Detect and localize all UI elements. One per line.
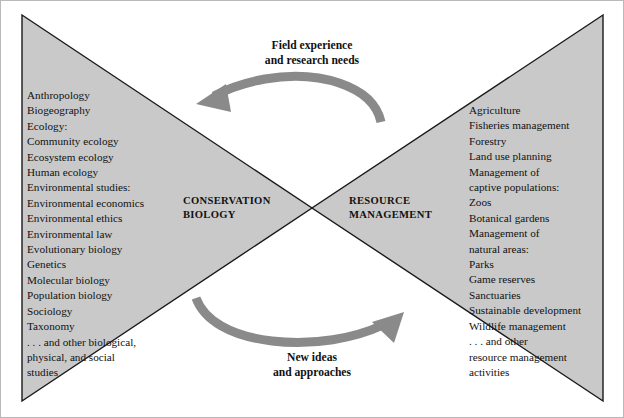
top-arrow-caption: Field experience and research needs <box>0 38 624 68</box>
field-item: Management of <box>469 165 581 180</box>
field-item: Management of <box>469 226 581 241</box>
discipline-item: Molecular biology <box>27 273 144 288</box>
conservation-biology-diagram: AnthropologyBiogeographyEcology:Communit… <box>0 0 624 418</box>
discipline-item: Environmental economics <box>27 196 144 211</box>
field-item: captive populations: <box>469 180 581 195</box>
curved-arrow-right-icon <box>196 298 404 343</box>
bottom-arrow-caption: New ideas and approaches <box>0 350 624 380</box>
field-item: natural areas: <box>469 242 581 257</box>
field-item: Land use planning <box>469 149 581 164</box>
discipline-item: Genetics <box>27 257 144 272</box>
discipline-item: Ecology: <box>27 119 144 134</box>
field-item: Forestry <box>469 134 581 149</box>
field-item: Agriculture <box>469 103 581 118</box>
discipline-item: Sociology <box>27 304 144 319</box>
discipline-item: Ecosystem ecology <box>27 150 144 165</box>
field-item: Sustainable development <box>469 303 581 318</box>
discipline-item: . . . and other biological, <box>27 335 144 350</box>
discipline-item: Anthropology <box>27 88 144 103</box>
discipline-item: Evolutionary biology <box>27 242 144 257</box>
discipline-item: Environmental studies: <box>27 180 144 195</box>
discipline-item: Biogeography <box>27 103 144 118</box>
resource-management-fields-list: AgricultureFisheries managementForestryL… <box>469 103 581 380</box>
field-item: Botanical gardens <box>469 211 581 226</box>
discipline-item: Taxonomy <box>27 319 144 334</box>
discipline-item: Human ecology <box>27 165 144 180</box>
discipline-item: Community ecology <box>27 134 144 149</box>
field-item: Parks <box>469 257 581 272</box>
field-item: Zoos <box>469 195 581 210</box>
conservation-biology-disciplines-list: AnthropologyBiogeographyEcology:Communit… <box>27 88 144 381</box>
discipline-item: Environmental ethics <box>27 211 144 226</box>
field-item: Sanctuaries <box>469 288 581 303</box>
field-item: Wildlife management <box>469 319 581 334</box>
field-item: . . . and other <box>469 334 581 349</box>
conservation-biology-title: CONSERVATION BIOLOGY <box>183 194 271 221</box>
discipline-item: Environmental law <box>27 227 144 242</box>
field-item: Fisheries management <box>469 118 581 133</box>
resource-management-title: RESOURCE MANAGEMENT <box>349 194 432 221</box>
curved-arrow-left-icon <box>196 76 381 122</box>
discipline-item: Population biology <box>27 288 144 303</box>
field-item: Game reserves <box>469 272 581 287</box>
